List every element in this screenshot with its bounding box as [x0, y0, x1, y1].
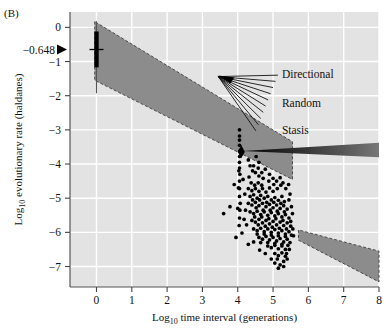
data-point: [241, 178, 245, 182]
data-point: [249, 181, 253, 185]
data-point: [291, 227, 295, 231]
data-point: [238, 216, 242, 220]
data-point: [269, 257, 273, 261]
data-point: [250, 219, 254, 223]
y-tick-label: −6: [49, 226, 61, 238]
data-point: [285, 252, 289, 256]
y-tick-label: −3: [49, 124, 61, 136]
data-point: [258, 198, 262, 202]
data-point: [250, 203, 254, 207]
data-point: [269, 246, 273, 250]
data-point: [256, 166, 260, 170]
data-point: [268, 208, 272, 212]
x-tick-label: 1: [129, 294, 135, 306]
data-point: [252, 164, 256, 168]
data-point: [263, 252, 267, 256]
data-point: [252, 193, 256, 197]
data-point: [292, 234, 296, 238]
data-point: [261, 221, 265, 225]
data-point: [253, 215, 257, 219]
data-point: [259, 241, 263, 245]
data-point: [258, 248, 262, 252]
data-point: [285, 257, 289, 261]
data-point: [284, 235, 288, 239]
data-point: [275, 203, 279, 207]
data-point: [275, 179, 279, 183]
data-point: [274, 217, 278, 221]
data-point: [261, 208, 265, 212]
svg-text:Log10 evolutionary rate (halda: Log10 evolutionary rate (haldanes): [12, 73, 27, 225]
x-tick-label: 3: [200, 294, 206, 306]
data-point: [248, 164, 252, 168]
data-point: [287, 198, 291, 202]
data-point: [283, 210, 287, 214]
data-point: [281, 181, 285, 185]
fan-label: Random: [282, 97, 321, 109]
data-point: [254, 155, 258, 159]
x-tick-label: 0: [94, 294, 100, 306]
data-point: [254, 187, 258, 191]
data-point: [272, 183, 276, 187]
data-point: [280, 215, 284, 219]
data-point: [271, 190, 275, 194]
data-point: [278, 226, 282, 230]
data-point: [238, 138, 242, 142]
data-point: [288, 192, 292, 196]
data-point: [248, 195, 252, 199]
data-point: [275, 223, 279, 227]
data-point: [253, 183, 257, 187]
data-point: [284, 187, 288, 191]
y-tick-label: 0: [55, 21, 61, 33]
data-point: [286, 243, 290, 247]
data-point: [273, 261, 277, 265]
data-point: [287, 183, 291, 187]
x-tick-label: 8: [376, 294, 382, 306]
y-tick-label: −5: [49, 192, 61, 204]
data-point: [254, 206, 258, 210]
data-point: [265, 200, 269, 204]
data-point: [257, 236, 261, 240]
data-point: [266, 195, 270, 199]
data-point: [254, 200, 258, 204]
data-point: [238, 134, 242, 138]
data-point: [238, 179, 242, 183]
data-point: [246, 242, 250, 246]
data-point: [255, 232, 259, 236]
data-point: [238, 201, 242, 205]
data-point: [261, 177, 265, 181]
data-point: [260, 183, 264, 187]
data-point: [282, 224, 286, 228]
data-point: [246, 201, 250, 205]
data-point: [267, 217, 271, 221]
data-point: [238, 172, 242, 176]
data-point: [260, 171, 264, 175]
data-point: [237, 169, 241, 173]
x-tick-label: 2: [164, 294, 170, 306]
data-point: [277, 247, 281, 251]
data-point: [266, 227, 270, 231]
data-point: [275, 257, 279, 261]
data-point: [280, 242, 284, 246]
data-point: [287, 216, 291, 220]
data-point: [257, 160, 261, 164]
y-axis-title: Log10 evolutionary rate (haldanes): [12, 73, 27, 225]
data-point: [264, 205, 268, 209]
data-point: [273, 196, 277, 200]
data-point: [261, 187, 265, 191]
data-point: [257, 174, 261, 178]
x-tick-label: 6: [305, 294, 311, 306]
data-point: [285, 227, 289, 231]
data-point: [267, 179, 271, 183]
data-point: [277, 234, 281, 238]
data-point: [271, 220, 275, 224]
data-point: [228, 205, 232, 209]
data-point: [222, 212, 226, 216]
data-point: [246, 187, 250, 191]
data-point: [271, 206, 275, 210]
data-point: [237, 186, 241, 190]
data-point: [243, 192, 247, 196]
data-point: [266, 213, 270, 217]
data-point: [264, 190, 268, 194]
data-point: [287, 248, 291, 252]
data-point: [275, 187, 279, 191]
